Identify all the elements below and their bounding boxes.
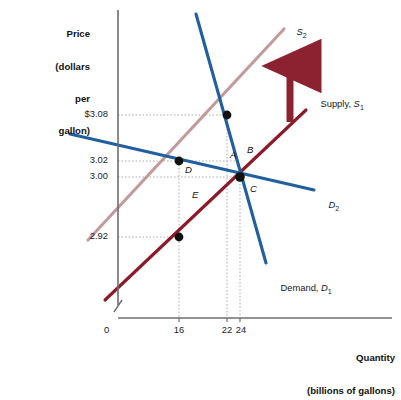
y-tick-label-308: $3.08 (48, 109, 108, 120)
curve-label-s2: S2 (286, 16, 307, 50)
point-label-e: E (192, 190, 198, 201)
y-axis-title: Price (dollars per gallon) (6, 8, 90, 158)
point-label-b: B (247, 145, 253, 156)
curve-label-s1-text: Supply, (320, 98, 353, 109)
curve-label-s1-sub: 1 (360, 103, 364, 110)
y-axis-title-line3: per (6, 94, 90, 105)
curve-label-d1-text: Demand, (280, 282, 321, 293)
point-label-a: A (230, 150, 236, 161)
curve-label-d1-sub: 1 (328, 287, 332, 294)
y-tick-label-292: 2.92 (48, 231, 108, 242)
x-tick-label-24: 24 (226, 325, 256, 336)
point-dot-s1-16 (175, 233, 184, 242)
curve-label-s2-sub: 2 (303, 31, 307, 38)
point-label-d: D (185, 165, 192, 176)
point-dot-equilibrium (235, 172, 245, 182)
curve-demand-d1 (196, 14, 266, 263)
point-dot-d (175, 157, 184, 166)
x-axis-title-line2: (billions of gallons) (247, 386, 395, 397)
y-axis-title-line2: (dollars (6, 62, 90, 73)
y-axis-title-line4: gallon) (6, 126, 90, 137)
curve-label-d2: D2 (318, 189, 339, 223)
point-label-c: C (250, 184, 257, 195)
x-axis-title-line1: Quantity (247, 353, 395, 364)
x-axis-title: Quantity (billions of gallons) (247, 332, 395, 400)
y-tick-label-300: 3.00 (48, 171, 108, 182)
curve-label-supply-s1: Supply, S1 (310, 88, 364, 122)
curve-label-demand-d1: Demand, D1 (270, 272, 332, 306)
gridlines (118, 115, 240, 318)
origin-label: 0 (104, 325, 109, 336)
y-axis-title-line1: Price (6, 29, 90, 40)
x-tick-label-16: 16 (164, 325, 194, 336)
point-dot-s2-d1 (223, 111, 232, 120)
y-tick-label-302: 3.02 (48, 155, 108, 166)
curve-label-d1-letter: D (321, 282, 328, 293)
curve-label-d2-sub: 2 (335, 204, 339, 211)
